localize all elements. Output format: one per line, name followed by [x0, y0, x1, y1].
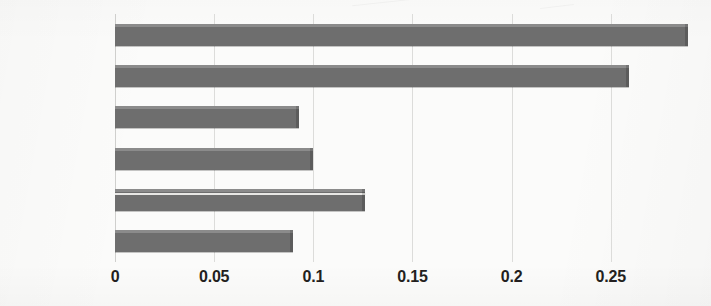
bar-row — [115, 148, 695, 170]
bar-row — [115, 65, 695, 87]
x-axis-tick-labels: 00.050.10.150.20.25 — [0, 268, 711, 298]
bar-lower-lip — [115, 189, 365, 211]
scan-artifact-line — [115, 193, 366, 195]
bar-right-eye — [115, 24, 688, 46]
gridline-0-2 — [512, 14, 513, 262]
x-tick-0-1: 0.1 — [302, 268, 324, 286]
bar-row — [115, 230, 695, 252]
bar-d1 — [115, 148, 313, 170]
bar-row — [115, 24, 695, 46]
bar-row — [115, 189, 695, 211]
bar-chart: Right EyeLeft EyeMouth SizeD1Lower LipUp… — [0, 0, 711, 306]
x-tick-0-05: 0.05 — [199, 268, 229, 286]
gridline-0 — [115, 14, 116, 262]
bar-mouth-size — [115, 106, 299, 128]
x-tick-0-2: 0.2 — [501, 268, 523, 286]
gridline-0-1 — [313, 14, 314, 262]
gridline-0-25 — [611, 14, 612, 262]
x-tick-0-25: 0.25 — [596, 268, 626, 286]
plot-area — [115, 14, 695, 262]
bar-row — [115, 106, 695, 128]
x-tick-0-15: 0.15 — [397, 268, 427, 286]
gridline-0-05 — [214, 14, 215, 262]
scan-artifact-speckle — [352, 0, 412, 6]
scan-artifact-speckle — [540, 4, 574, 9]
gridline-0-15 — [412, 14, 413, 262]
bar-left-eye — [115, 65, 629, 87]
bar-upper-lip — [115, 230, 293, 252]
x-tick-0: 0 — [111, 268, 120, 286]
